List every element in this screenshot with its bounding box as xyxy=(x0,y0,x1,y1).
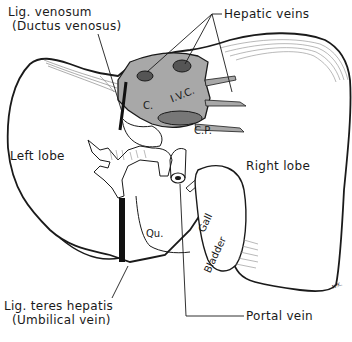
label-caudate-process: C.P. xyxy=(194,126,212,136)
portal-branches-left xyxy=(88,140,172,198)
hepatic-vein-branch-lower xyxy=(205,100,246,106)
label-hepatic-veins: Hepatic veins xyxy=(224,8,309,20)
label-ductus-venosus: (Ductus venosus) xyxy=(12,20,122,32)
liver-diagram: Lig. venosum (Ductus venosus) Hepatic ve… xyxy=(0,0,352,342)
label-portal-vein: Portal vein xyxy=(246,310,313,322)
right-lobe-hatching xyxy=(220,40,348,82)
ligamentum-teres xyxy=(119,198,125,262)
ivc-bottom-opening xyxy=(158,111,202,125)
label-right-lobe: Right lobe xyxy=(246,160,310,172)
hepatic-vein-branch-right xyxy=(205,76,236,86)
hepatic-vein-opening-right xyxy=(173,60,191,72)
label-lig-teres: Lig. teres hepatis xyxy=(4,300,113,312)
label-quadrate: Qu. xyxy=(146,229,163,239)
portal-vein-lumen xyxy=(175,176,181,180)
label-umbilical-vein: (Umbilical vein) xyxy=(12,314,111,326)
label-caudate: C. xyxy=(143,101,153,111)
label-lig-venosum: Lig. venosum xyxy=(8,6,92,18)
hepatic-vein-opening-left xyxy=(137,71,153,81)
label-left-lobe: Left lobe xyxy=(10,150,65,162)
left-lobe-hatching xyxy=(44,60,118,92)
